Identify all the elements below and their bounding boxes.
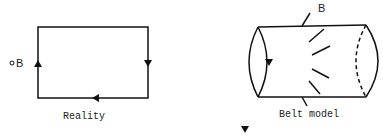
arrow-up-icon — [34, 60, 42, 67]
reality-loop — [38, 27, 148, 98]
small-triangle-icon — [241, 126, 249, 133]
belt-b-label: B — [318, 2, 325, 14]
arrow-left-icon — [92, 94, 99, 102]
arrow-down-icon — [144, 60, 152, 67]
belt-model-caption: Belt model — [279, 109, 339, 120]
diagram-canvas: B Reality B Belt model — [0, 0, 383, 137]
reality-caption: Reality — [63, 111, 105, 122]
rectangular-loop — [38, 27, 148, 98]
point-b-label: B — [16, 57, 23, 69]
point-marker — [10, 61, 14, 65]
